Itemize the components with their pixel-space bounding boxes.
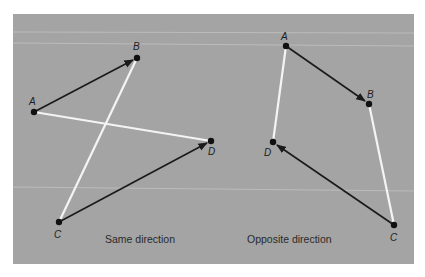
point-c xyxy=(391,222,397,228)
caption-opposite-direction: Opposite direction xyxy=(247,233,332,245)
vector-direction-diagram: A B C D Same direction A B C D Opposite … xyxy=(0,0,425,277)
label-c: C xyxy=(390,232,398,243)
label-c: C xyxy=(54,229,62,240)
label-a: A xyxy=(280,31,288,42)
point-a xyxy=(31,109,37,115)
point-a xyxy=(283,43,289,49)
point-b xyxy=(134,55,140,61)
point-d xyxy=(208,138,214,144)
label-b: B xyxy=(133,41,140,52)
caption-same-direction: Same direction xyxy=(105,233,175,245)
label-b: B xyxy=(367,89,374,100)
point-d xyxy=(270,139,276,145)
gray-panel xyxy=(13,14,414,264)
label-d: D xyxy=(264,147,271,158)
label-a: A xyxy=(28,96,36,107)
label-d: D xyxy=(208,146,215,157)
point-b xyxy=(366,101,372,107)
point-c xyxy=(56,219,62,225)
